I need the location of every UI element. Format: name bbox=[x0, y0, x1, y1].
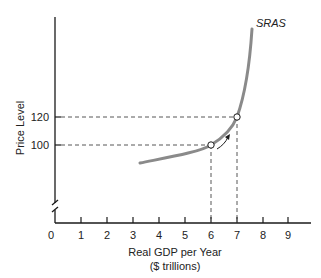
x-tick-labels: 0 1 2 3 4 5 6 7 8 9 bbox=[48, 229, 291, 241]
x-tick-4: 4 bbox=[156, 229, 162, 241]
point-6-100 bbox=[208, 142, 214, 148]
x-tick-8: 8 bbox=[260, 229, 266, 241]
x-axis-subtitle: ($ trillions) bbox=[150, 260, 201, 272]
x-tick-7: 7 bbox=[234, 229, 240, 241]
point-7-120 bbox=[234, 114, 240, 120]
dashed-guides bbox=[61, 117, 237, 223]
x-tick-6: 6 bbox=[208, 229, 214, 241]
x-tick-5: 5 bbox=[182, 229, 188, 241]
x-tick-9: 9 bbox=[285, 229, 291, 241]
y-axis-title: Price Level bbox=[14, 101, 26, 155]
x-tick-3: 3 bbox=[130, 229, 136, 241]
y-tick-label-100: 100 bbox=[31, 139, 49, 151]
sras-curve bbox=[140, 29, 252, 163]
x-tick-0: 0 bbox=[48, 229, 54, 241]
sras-label: SRAS bbox=[256, 17, 287, 29]
sras-chart: 0 1 2 3 4 5 6 7 8 9 120 100 Price Level … bbox=[0, 0, 321, 278]
y-tick-label-120: 120 bbox=[31, 111, 49, 123]
x-axis-title: Real GDP per Year bbox=[128, 246, 222, 258]
x-ticks bbox=[81, 217, 288, 223]
x-tick-1: 1 bbox=[78, 229, 84, 241]
x-tick-2: 2 bbox=[104, 229, 110, 241]
